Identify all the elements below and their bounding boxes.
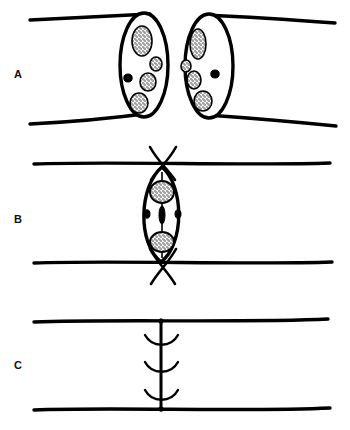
organelle-stippled [130,93,148,113]
panel-b-artwork [34,147,332,284]
septum-junction-dot-top [158,318,163,323]
daughter-nucleus-upper [150,181,174,203]
organelle-stippled [194,91,212,111]
figure-artwork [0,0,350,430]
organelle-stippled [181,60,191,72]
organelle-stippled [150,57,162,71]
organelle-solid-dot [211,70,219,78]
panel-c-artwork [34,318,330,411]
cell-division-figure: A B C [0,0,350,430]
panel-label-b: B [14,214,22,225]
lower-cell-wall [34,262,332,263]
left-cylinder-bottom-wall [30,113,152,124]
right-cylinder-top-wall [205,15,335,23]
vesicle-right [175,210,181,218]
panel-a-artwork [30,13,336,126]
daughter-nucleus-lower [150,232,174,252]
organelle-solid-dot [124,74,132,82]
septum-junction-dot-bottom [158,406,163,411]
lower-cell-wall [34,408,330,410]
organelle-stippled [190,29,206,59]
organelle-stippled [140,73,156,91]
organelle-stippled [187,71,201,89]
right-cylinder-bottom-wall [207,115,336,126]
upper-cell-wall [34,163,330,164]
vesicle-left [144,210,150,218]
panel-label-a: A [14,69,22,80]
organelle-stippled [132,26,152,56]
upper-cell-wall [34,319,328,322]
panel-label-c: C [14,360,22,371]
midbody [159,206,165,224]
